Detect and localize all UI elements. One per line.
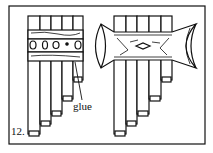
figure-number: 12. (11, 125, 25, 137)
panpipe-illustration (0, 0, 213, 153)
glue-label: glue (73, 100, 92, 112)
